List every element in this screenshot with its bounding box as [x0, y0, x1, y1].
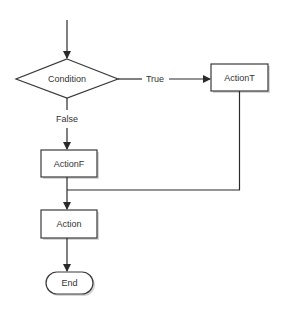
end-label: End — [61, 278, 77, 288]
true-edge: True — [118, 74, 210, 84]
action-node[interactable]: Action — [41, 210, 99, 240]
condition-label: Condition — [48, 74, 86, 84]
action-label: Action — [56, 219, 81, 229]
true-label: True — [146, 74, 164, 84]
flowchart-canvas: Condition True ActionT False ActionF Act… — [0, 0, 281, 309]
action-t-label: ActionT — [224, 73, 255, 83]
false-label: False — [56, 114, 78, 124]
end-node[interactable]: End — [46, 272, 95, 296]
action-t-node[interactable]: ActionT — [211, 64, 270, 93]
action-f-node[interactable]: ActionF — [41, 150, 99, 179]
action-f-label: ActionF — [54, 159, 85, 169]
condition-node[interactable]: Condition — [16, 59, 118, 98]
false-edge: False — [56, 98, 78, 149]
